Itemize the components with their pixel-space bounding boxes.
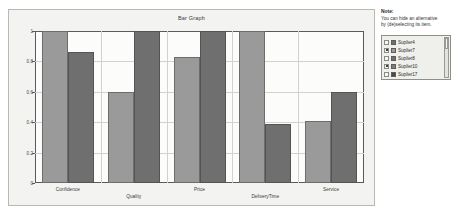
legend-item-label: Suplier10 [398, 64, 417, 69]
note-title: Note: [381, 9, 453, 14]
bar [200, 31, 226, 183]
plot-area: 00.20.40.60.81 ConfidenceQualityPriceDel… [35, 31, 364, 183]
legend-scrollbar-thumb[interactable] [445, 38, 448, 49]
legend-checkbox[interactable] [384, 48, 389, 53]
bar [174, 57, 200, 183]
y-axis-tick-label: 0 [7, 181, 33, 186]
legend-list[interactable]: Suplier4Suplier7Suplier8Suplier10Suplier… [381, 35, 451, 80]
y-axis-tick-label: 0.2 [7, 150, 33, 155]
legend-item-label: Suplier17 [398, 72, 417, 77]
legend-item-label: Suplier7 [398, 48, 415, 53]
legend-item-label: Suplier4 [398, 40, 415, 45]
bar-graph-widget: Bar Graph 00.20.40.60.81 ConfidenceQuali… [0, 0, 459, 223]
x-axis-category-label: Service [323, 187, 339, 192]
bar [42, 31, 68, 183]
bar [134, 31, 160, 183]
bar [331, 92, 357, 183]
bar [68, 52, 94, 183]
note-block: Note: You can hide an alternative by (de… [381, 9, 453, 28]
legend-scrollbar[interactable] [444, 37, 449, 78]
legend-color-swatch [391, 48, 396, 53]
chart-panel: Bar Graph 00.20.40.60.81 ConfidenceQuali… [8, 9, 375, 206]
note-line-2: by (de)selecting its item. [381, 22, 453, 28]
legend-color-swatch [391, 40, 396, 45]
legend-item-suplier10[interactable]: Suplier10 [384, 62, 449, 70]
y-axis-tick-label: 0.6 [7, 89, 33, 94]
bar [265, 124, 291, 183]
y-axis-tick-mark [32, 183, 35, 184]
y-axis-tick-label: 0.8 [7, 59, 33, 64]
legend-item-suplier4[interactable]: Suplier4 [384, 38, 449, 46]
legend-color-swatch [391, 64, 396, 69]
x-axis-category-label: DeliveryTime [251, 194, 279, 199]
bar [239, 31, 265, 183]
chart-title: Bar Graph [9, 15, 374, 21]
y-axis-tick-label: 1 [7, 29, 33, 34]
legend-checkbox[interactable] [384, 64, 389, 69]
x-axis-category-label: Confidence [56, 187, 80, 192]
legend-checkbox[interactable] [384, 40, 389, 45]
legend-checkbox[interactable] [384, 56, 389, 61]
x-axis-category-label: Price [194, 187, 205, 192]
legend-checkbox[interactable] [384, 72, 389, 77]
x-axis-category-label: Quality [126, 194, 141, 199]
bars-layer [35, 31, 364, 183]
legend-item-label: Suplier8 [398, 56, 415, 61]
y-axis-tick-label: 0.4 [7, 120, 33, 125]
legend-color-swatch [391, 56, 396, 61]
legend-item-suplier8[interactable]: Suplier8 [384, 54, 449, 62]
bar [108, 92, 134, 183]
legend-rows: Suplier4Suplier7Suplier8Suplier10Suplier… [384, 38, 449, 78]
bar [305, 121, 331, 183]
legend-color-swatch [391, 72, 396, 77]
legend-item-suplier17[interactable]: Suplier17 [384, 70, 449, 78]
legend-item-suplier7[interactable]: Suplier7 [384, 46, 449, 54]
